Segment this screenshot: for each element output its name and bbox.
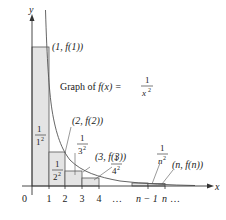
- point-label-3: (3, f(3)): [95, 151, 127, 163]
- point-label-n: (n, f(n)): [172, 159, 204, 171]
- x-tick-n: n: [162, 193, 167, 204]
- origin-label: 0: [22, 193, 27, 204]
- svg-text:1: 1: [145, 75, 150, 85]
- svg-text:2: 2: [117, 165, 120, 171]
- x-tick-3: 3: [80, 193, 85, 204]
- y-axis-label: y: [28, 4, 34, 15]
- svg-text:2: 2: [41, 136, 44, 142]
- x-tick-ellipsis-1: …: [112, 193, 122, 204]
- point-label-2: (2, f(2)): [72, 115, 104, 127]
- svg-text:1: 1: [114, 153, 119, 163]
- x-axis-label: x: [214, 181, 220, 192]
- svg-text:1: 1: [80, 133, 85, 143]
- svg-text:2: 2: [148, 87, 151, 93]
- svg-text:1: 1: [37, 124, 42, 134]
- svg-text:Graph of f(x) =: Graph of f(x) =: [60, 81, 121, 93]
- x-tick-1: 1: [47, 193, 52, 204]
- rect-4: [82, 178, 99, 186]
- fraction-1-over-n-squared: 1 n 2: [157, 143, 168, 166]
- rect-3: [65, 171, 82, 186]
- x-tick-n-minus-1: n − 1: [136, 193, 158, 204]
- svg-text:2: 2: [53, 172, 58, 182]
- svg-text:1: 1: [55, 159, 60, 169]
- point-label-1: (1, f(1)): [52, 41, 84, 53]
- svg-text:1: 1: [160, 143, 165, 153]
- x-tick-ellipsis-2: …: [170, 193, 180, 204]
- x-axis-arrow-icon: [207, 184, 214, 189]
- x-tick-2: 2: [63, 193, 68, 204]
- diagram-canvas: y x 0 1 2 3 4 … n − 1 n … (1, f(1)) (2, …: [0, 0, 226, 220]
- svg-text:2: 2: [83, 145, 86, 151]
- rect-1: [32, 47, 49, 186]
- fraction-1-over-3-squared: 1 3 2: [77, 133, 88, 156]
- svg-text:2: 2: [58, 171, 61, 177]
- x-tick-4: 4: [97, 193, 102, 204]
- svg-text:1: 1: [36, 137, 41, 147]
- svg-text:x: x: [141, 88, 146, 98]
- svg-text:2: 2: [163, 155, 166, 161]
- y-axis-arrow-icon: [30, 14, 35, 21]
- graph-label: Graph of f(x) = 1 x 2: [60, 75, 153, 98]
